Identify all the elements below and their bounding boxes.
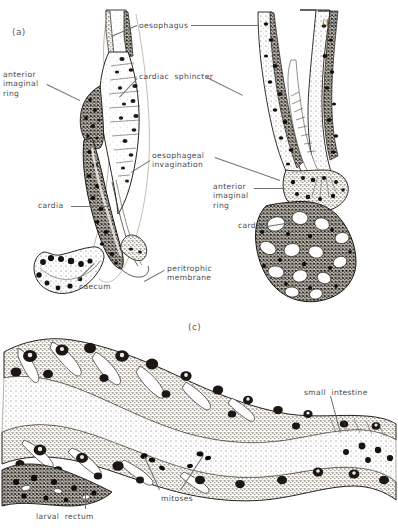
leader-cardiac-left bbox=[119, 78, 137, 97]
label-cardia-a: cardia bbox=[38, 201, 64, 210]
leader-cardia-b bbox=[267, 222, 292, 227]
figure-root: (a) (b) (c) oesophagus anterior imaginal… bbox=[0, 0, 398, 530]
label-cardiac-sphincter: cardiac sphincter bbox=[139, 72, 213, 81]
mitotic-figures bbox=[140, 451, 212, 471]
label-mitoses: mitoses bbox=[161, 494, 193, 503]
leader-larval-rectum bbox=[85, 486, 86, 509]
panel-letter-c: (c) bbox=[188, 322, 201, 332]
leader-peritrophic bbox=[144, 270, 164, 282]
leader-caecum bbox=[77, 263, 94, 280]
leader-mitoses-left bbox=[144, 457, 160, 490]
label-anterior-imaginal-ring-a: anterior imaginal ring bbox=[3, 70, 38, 98]
leader-small-intestine bbox=[330, 396, 341, 433]
label-anterior-imaginal-ring-b: anterior imaginal ring bbox=[213, 182, 248, 210]
label-oesophageal-invagination: oesophageal invagination bbox=[152, 151, 204, 170]
leader-anterior-ring-b bbox=[254, 188, 285, 189]
leader-oesophagus-left bbox=[111, 25, 137, 37]
label-cardia-b: cardia bbox=[238, 221, 264, 230]
panel-b-drawing bbox=[255, 10, 356, 302]
panel-a-drawing bbox=[34, 10, 150, 293]
leader-oesophagus-right bbox=[191, 25, 259, 26]
leader-invagination-b bbox=[215, 157, 280, 181]
leader-mitoses-right bbox=[180, 455, 204, 490]
leader-anterior-ring-a bbox=[47, 84, 80, 101]
panel-letter-b: (b) bbox=[322, 18, 336, 28]
leader-cardia-a bbox=[71, 206, 110, 207]
label-larval-rectum: larval rectum bbox=[36, 512, 94, 521]
label-oesophagus: oesophagus bbox=[139, 21, 188, 30]
panel-letter-a: (a) bbox=[12, 27, 26, 37]
label-small-intestine: small intestine bbox=[304, 388, 368, 397]
label-caecum: caecum bbox=[79, 282, 111, 291]
leader-invagination-a bbox=[131, 160, 150, 173]
label-peritrophic-membrane: peritrophic membrane bbox=[167, 264, 212, 283]
